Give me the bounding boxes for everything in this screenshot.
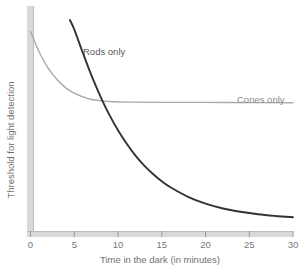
x-axis-tick-label: 15 bbox=[157, 239, 168, 250]
x-axis-tick-label: 30 bbox=[288, 239, 299, 250]
x-axis-title: Time in the dark (in minutes) bbox=[100, 254, 220, 265]
cones-only-label: Cones only bbox=[237, 94, 285, 105]
dark-adaptation-chart: 051015202530 Rods only Cones only Time i… bbox=[0, 0, 304, 272]
x-axis-tick-label: 20 bbox=[200, 239, 211, 250]
rods-only-label: Rods only bbox=[83, 46, 125, 57]
x-axis-tick-label: 25 bbox=[244, 239, 255, 250]
y-axis-band bbox=[27, 6, 33, 237]
x-axis-tick-label: 10 bbox=[113, 239, 124, 250]
chart-figure: 051015202530 Rods only Cones only Time i… bbox=[0, 0, 304, 272]
x-axis-tick-label: 5 bbox=[72, 239, 77, 250]
y-axis-title: Threshold for light detection bbox=[5, 81, 16, 198]
x-axis-tick-label: 0 bbox=[28, 239, 33, 250]
